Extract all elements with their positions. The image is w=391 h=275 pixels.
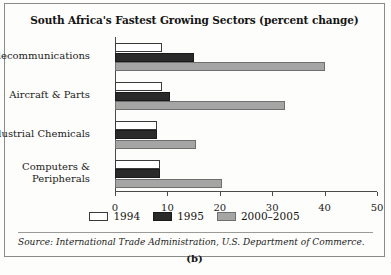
x-tick-mark — [377, 192, 378, 196]
bar — [115, 62, 325, 71]
category-label: Telecommunications — [0, 50, 90, 62]
x-tick-mark — [272, 192, 273, 196]
x-tick-mark — [325, 192, 326, 196]
x-tick-mark — [167, 192, 168, 196]
legend-swatch — [153, 212, 172, 221]
legend-item: 1994 — [89, 210, 140, 222]
chart-title: South Africa's Fastest Growing Sectors (… — [5, 14, 384, 26]
bar — [115, 92, 170, 101]
panel-label: (b) — [5, 253, 384, 264]
bar — [115, 82, 162, 91]
category-axis-line — [115, 191, 377, 192]
x-tick-mark — [220, 192, 221, 196]
chart-frame: South Africa's Fastest Growing Sectors (… — [4, 3, 385, 257]
legend-label: 2000–2005 — [241, 210, 300, 222]
legend-label: 1995 — [177, 210, 204, 222]
category-label: Aircraft & Parts — [0, 89, 90, 101]
source-note: Source: International Trade Administrati… — [18, 237, 365, 247]
plot-area: 01020304050 TelecommunicationsAircraft &… — [115, 37, 377, 192]
bar — [115, 179, 222, 188]
bar — [115, 160, 160, 169]
source-divider — [18, 232, 373, 233]
legend-swatch — [89, 212, 108, 221]
chart-legend: 199419952000–2005 — [5, 210, 384, 222]
legend-item: 2000–2005 — [217, 210, 300, 222]
bar — [115, 101, 285, 110]
bar — [115, 43, 162, 52]
legend-swatch — [217, 212, 236, 221]
bar — [115, 130, 157, 139]
legend-item: 1995 — [153, 210, 204, 222]
legend-label: 1994 — [113, 210, 140, 222]
bar — [115, 121, 157, 130]
x-tick-mark — [115, 192, 116, 196]
figure-panel: South Africa's Fastest Growing Sectors (… — [0, 0, 391, 275]
bar — [115, 169, 160, 178]
category-label: Computers & Peripherals — [0, 161, 90, 185]
bar — [115, 140, 196, 149]
category-label: Industrial Chemicals — [0, 128, 90, 140]
bar — [115, 53, 194, 62]
